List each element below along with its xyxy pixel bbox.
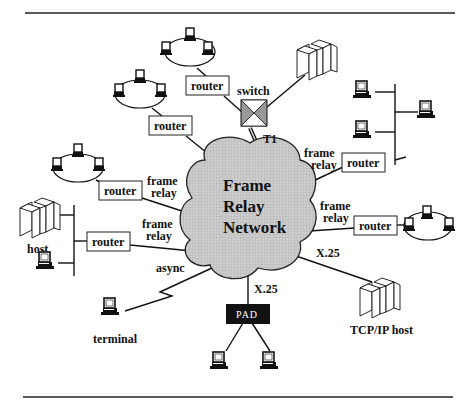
relay-label: relay [311,158,337,172]
pc-icon [260,352,278,369]
pc-icon [353,121,371,138]
tcpip-host-label: TCP/IP host [350,323,413,337]
server-top-right [297,40,337,80]
tcpip-host-server [360,278,400,318]
pc-icon [353,81,371,98]
router-label: router [191,79,224,93]
lan-ring-top [160,28,215,66]
router-label: router [347,156,380,170]
lan-ring-right [403,206,455,240]
cloud-label-line1: Frame [223,176,272,195]
terminal-label: terminal [93,332,138,346]
pc-icon [36,252,54,269]
router-host-left[interactable]: router [87,232,130,251]
relay-label: relay [146,229,172,243]
lan-ring-upper-left [113,70,167,108]
frame-relay-network-diagram: Frame Relay Network router router router [0,0,476,411]
relay-label: relay [323,211,349,225]
t1-label: T1 [263,132,277,146]
cloud-label-line2: Relay [223,197,265,216]
x25-label-pad: X.25 [254,282,278,296]
pc-icon [417,101,435,118]
pc-icon [210,352,228,369]
router-right-top[interactable]: router [342,153,385,172]
pad-label: PAD [236,309,258,320]
lan-ring-left [51,144,105,182]
router-left[interactable]: router [99,181,142,200]
router-label: router [359,219,392,233]
router-top[interactable]: router [186,76,229,95]
router-right-mid[interactable]: router [354,216,397,235]
pad-device[interactable]: PAD [226,304,270,324]
router-label: router [92,235,125,249]
async-label: async [156,261,185,275]
switch[interactable]: switch [237,84,270,126]
terminal-icon [101,298,119,315]
switch-label: switch [237,84,270,98]
cloud-label-line3: Network [223,218,287,237]
router-label: router [154,119,187,133]
router-upper-left[interactable]: router [149,116,192,135]
x25-label-tcpip: X.25 [316,246,340,260]
router-label: router [104,184,137,198]
relay-label: relay [151,186,177,200]
host-server-left [20,198,60,238]
